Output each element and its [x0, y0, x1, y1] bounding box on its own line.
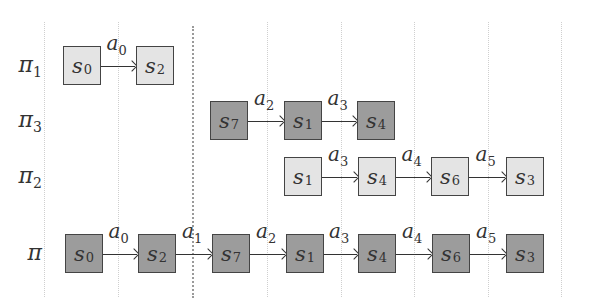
policy-subscript: 1: [33, 64, 42, 80]
row-label-pi: π: [2, 240, 42, 265]
transition-arrow: [248, 121, 283, 122]
action-symbol: a: [107, 31, 119, 55]
state-node: s6: [431, 157, 469, 196]
action-index: 1: [194, 231, 202, 246]
state-node: s1: [284, 101, 322, 140]
state-node: s0: [65, 234, 103, 273]
state-symbol: s: [221, 242, 232, 266]
action-index: 0: [118, 43, 126, 58]
state-index: 2: [159, 250, 167, 265]
policy-subscript: 3: [33, 119, 42, 135]
action-index: 4: [414, 231, 422, 246]
state-index: 3: [527, 250, 535, 265]
transition-arrow: [469, 177, 505, 178]
state-node: s0: [63, 46, 101, 85]
action-symbol: a: [402, 219, 414, 243]
state-symbol: s: [72, 54, 83, 78]
state-node: s7: [212, 234, 250, 273]
transition-arrow: [396, 177, 430, 178]
state-index: 4: [379, 173, 387, 188]
action-symbol: a: [328, 142, 340, 166]
state-node: s1: [284, 157, 322, 196]
action-label: a3: [328, 86, 348, 113]
state-symbol: s: [441, 242, 452, 266]
policy-symbol: π: [19, 163, 33, 188]
action-label: a3: [328, 142, 348, 169]
state-index: 6: [452, 173, 460, 188]
action-label: a3: [329, 219, 349, 246]
action-index: 5: [488, 231, 496, 246]
state-index: 4: [379, 250, 387, 265]
action-label: a1: [182, 219, 202, 246]
action-symbol: a: [328, 86, 340, 110]
action-label: a2: [256, 219, 276, 246]
state-symbol: s: [440, 165, 451, 189]
row-label-pi3: π3: [2, 107, 42, 135]
action-index: 5: [487, 154, 495, 169]
state-symbol: s: [147, 242, 158, 266]
state-symbol: s: [293, 109, 304, 133]
action-label: a4: [402, 219, 422, 246]
action-index: 3: [341, 231, 349, 246]
state-node: s2: [138, 234, 176, 273]
action-symbol: a: [329, 219, 341, 243]
grid-line: [561, 22, 562, 297]
state-symbol: s: [295, 242, 306, 266]
state-node: s4: [357, 101, 395, 140]
state-index: 0: [86, 250, 94, 265]
action-index: 0: [120, 231, 128, 246]
state-symbol: s: [367, 242, 378, 266]
action-symbol: a: [402, 142, 414, 166]
action-symbol: a: [254, 86, 266, 110]
policy-subscript: 2: [33, 175, 42, 191]
action-index: 2: [266, 98, 274, 113]
state-symbol: s: [515, 165, 526, 189]
state-symbol: s: [145, 54, 156, 78]
state-node: s4: [358, 234, 396, 273]
policy-symbol: π: [19, 107, 33, 132]
transition-arrow: [322, 177, 357, 178]
state-index: 0: [84, 62, 92, 77]
state-node: s4: [358, 157, 396, 196]
action-label: a4: [402, 142, 422, 169]
action-label: a2: [254, 86, 274, 113]
action-index: 3: [340, 154, 348, 169]
state-node: s3: [506, 157, 544, 196]
state-symbol: s: [219, 109, 230, 133]
transition-arrow: [101, 66, 135, 67]
transition-arrow: [103, 254, 137, 255]
state-symbol: s: [74, 242, 85, 266]
state-index: 6: [453, 250, 461, 265]
action-symbol: a: [182, 219, 194, 243]
state-node: s3: [506, 234, 544, 273]
action-index: 3: [339, 98, 347, 113]
action-label: a0: [107, 31, 127, 58]
state-index: 7: [233, 250, 241, 265]
row-label-pi2: π2: [2, 163, 42, 191]
state-node: s7: [210, 101, 248, 140]
state-index: 3: [527, 173, 535, 188]
transition-arrow: [322, 121, 356, 122]
state-node: s1: [286, 234, 324, 273]
policy-symbol: π: [19, 52, 33, 77]
state-index: 1: [305, 117, 313, 132]
state-node: s2: [136, 46, 174, 85]
action-symbol: a: [109, 219, 121, 243]
action-label: a0: [109, 219, 129, 246]
transition-arrow: [324, 254, 357, 255]
state-index: 1: [307, 250, 315, 265]
state-node: s6: [432, 234, 470, 273]
transition-arrow: [250, 254, 285, 255]
transition-arrow: [396, 254, 431, 255]
action-label: a5: [476, 142, 496, 169]
state-symbol: s: [366, 109, 377, 133]
state-symbol: s: [293, 165, 304, 189]
transition-arrow: [176, 254, 211, 255]
state-index: 4: [378, 117, 386, 132]
grid-line: [267, 22, 268, 297]
separator-line: [192, 26, 194, 298]
action-symbol: a: [256, 219, 268, 243]
state-index: 1: [305, 173, 313, 188]
action-index: 2: [268, 231, 276, 246]
grid-line: [44, 22, 45, 297]
